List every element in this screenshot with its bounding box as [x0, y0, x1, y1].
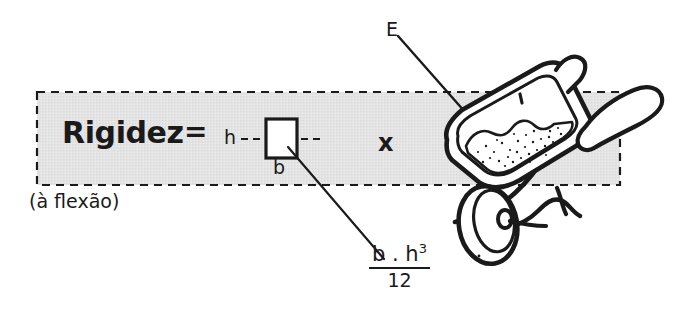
height-dimension-label: h: [224, 128, 236, 147]
formula-numerator-base: b . h: [372, 242, 419, 266]
width-dimension-label: b: [273, 158, 285, 177]
formula-denominator: 12: [369, 271, 430, 291]
equals-sign: =: [184, 118, 207, 146]
page-title: Rigidez: [62, 118, 184, 148]
wheel-highlight-dot: [478, 255, 481, 258]
multiplication-sign: x: [378, 131, 393, 155]
figure-vector-layer: [0, 0, 679, 315]
second-moment-of-area-formula: b . h3 12: [369, 243, 430, 291]
modulus-of-elasticity-label: E: [386, 20, 398, 39]
formula-numerator: b . h3: [369, 243, 430, 266]
subtitle-flexao: (à flexão): [29, 192, 119, 211]
tray-edge-tick: [520, 94, 522, 103]
figure-canvas: Rigidez = h b x (à flexão) E b . h3 12: [0, 0, 679, 315]
formula-numerator-exponent: 3: [419, 241, 427, 256]
